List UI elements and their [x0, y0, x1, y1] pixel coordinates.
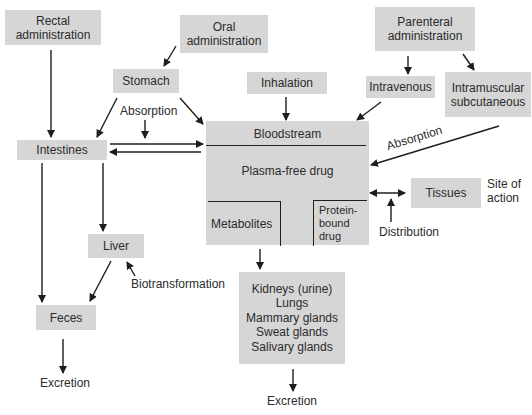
node-label: administration [187, 34, 262, 48]
node-label: Oral [213, 20, 236, 34]
label-distribution: Distribution [379, 225, 439, 239]
bloodstream-divider [206, 145, 366, 146]
label-site-of-action: Site of action [487, 177, 521, 205]
node-intestines: Intestines [17, 140, 107, 160]
node-label: administration [16, 28, 91, 42]
node-label: Feces [50, 311, 83, 325]
node-liver: Liver [88, 234, 144, 258]
node-excretion-organs: Kidneys (urine) Lungs Mammary glands Swe… [239, 272, 345, 364]
organ-sweat-glands: Sweat glands [256, 325, 328, 340]
organ-salivary-glands: Salivary glands [251, 340, 332, 355]
label-line: Site of [487, 177, 521, 191]
arrow-liver-feces [90, 261, 111, 301]
label-line: action [487, 191, 521, 205]
node-intramuscular-subcutaneous: Intramuscular subcutaneous [445, 72, 531, 117]
node-rectal-administration: Rectal administration [5, 10, 101, 45]
node-tissues: Tissues [411, 178, 481, 208]
node-stomach: Stomach [113, 69, 179, 93]
node-intravenous: Intravenous [366, 76, 435, 98]
node-parenteral-administration: Parenteral administration [375, 7, 475, 51]
node-bloodstream: Bloodstream Plasma-free drug Metabolites… [206, 121, 369, 245]
node-label: Parenteral [397, 15, 452, 29]
organ-kidneys: Kidneys (urine) [252, 282, 333, 297]
node-label: bound [319, 217, 358, 230]
label-absorption-left: Absorption [120, 104, 177, 118]
arrow-stomach-bloodstream [180, 98, 203, 124]
node-label: drug [319, 230, 358, 243]
arrow-stomach-intestines [97, 98, 117, 137]
node-inhalation: Inhalation [247, 72, 327, 94]
node-label: Tissues [426, 186, 467, 200]
node-label: Intramuscular [452, 81, 525, 95]
plasma-free-drug: Plasma-free drug [206, 164, 369, 178]
node-label: Inhalation [261, 76, 313, 90]
arrow-parenteral-imsc [463, 54, 474, 70]
node-oral-administration: Oral administration [180, 15, 268, 53]
label-excretion-left: Excretion [40, 376, 90, 390]
node-label: Intravenous [369, 80, 432, 94]
node-label: Rectal [36, 14, 70, 28]
organ-lungs: Lungs [276, 296, 309, 311]
organ-mammary-glands: Mammary glands [246, 311, 338, 326]
node-label: Intestines [36, 143, 87, 157]
node-label: subcutaneous [451, 95, 526, 109]
label-excretion-bottom: Excretion [267, 394, 317, 408]
arrow-oral-stomach [164, 46, 176, 66]
arrow-intravenous-bloodstream [357, 102, 381, 120]
node-protein-bound-drug: Protein- bound drug [319, 204, 358, 243]
node-label: Liver [103, 239, 129, 253]
node-label: administration [388, 29, 463, 43]
node-label: Stomach [122, 74, 169, 88]
bloodstream-title: Bloodstream [206, 127, 369, 141]
node-metabolites: Metabolites [211, 217, 272, 231]
label-biotransformation: Biotransformation [131, 277, 225, 291]
node-label: Protein- [319, 204, 358, 217]
arrow-biotransformation-liver [127, 262, 135, 276]
node-feces: Feces [36, 305, 96, 330]
